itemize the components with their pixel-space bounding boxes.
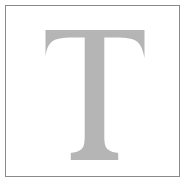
letter-glyph-container	[0, 0, 187, 193]
letter-t-glyph	[0, 0, 187, 193]
letter-t-path	[46, 30, 145, 160]
image-canvas	[0, 0, 187, 193]
